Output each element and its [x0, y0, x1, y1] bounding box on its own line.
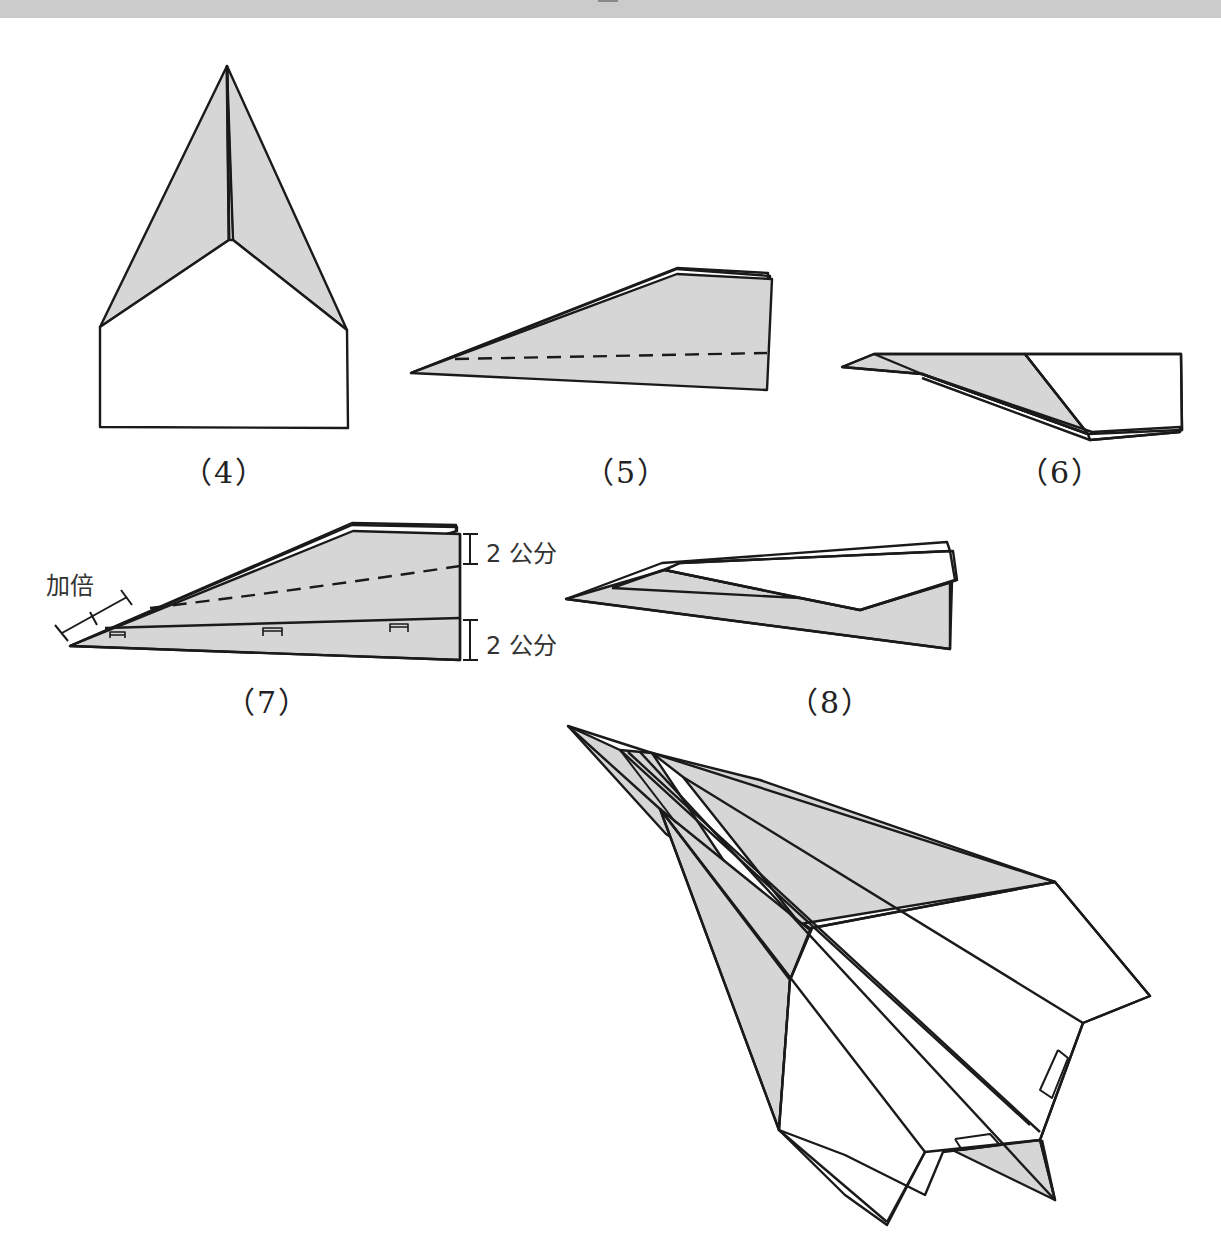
- step-4-figure: [100, 66, 348, 428]
- folding-diagram: [0, 0, 1221, 1252]
- top-measure-annotation: 2 公分: [486, 534, 557, 569]
- step-8-figure: [566, 542, 957, 649]
- step-5-figure: [411, 268, 772, 390]
- step-6-label: （6）: [1018, 448, 1103, 492]
- final-plane-figure: [568, 726, 1150, 1225]
- step-5-label: （5）: [584, 448, 669, 492]
- bottom-measure-annotation: 2 公分: [486, 626, 557, 661]
- step-8-label: （8）: [788, 678, 873, 722]
- step-6-figure: [842, 354, 1182, 440]
- step-7-label: （7）: [225, 678, 310, 722]
- step-4-label: （4）: [182, 448, 267, 492]
- double-annotation: 加倍: [46, 566, 94, 601]
- step-7-figure: [55, 523, 478, 660]
